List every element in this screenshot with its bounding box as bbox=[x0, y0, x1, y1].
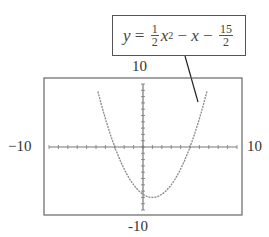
parabola-curve bbox=[98, 91, 207, 197]
axes bbox=[49, 84, 237, 210]
plot-area bbox=[0, 0, 269, 237]
callout-pointer bbox=[185, 56, 198, 102]
